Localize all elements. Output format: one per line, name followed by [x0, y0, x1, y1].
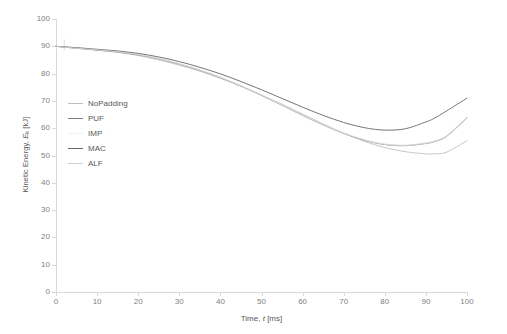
legend-swatch-icon-puf: [68, 118, 83, 119]
y-axis-title-symbol: E: [21, 134, 30, 139]
y-axis-title-pre: Kinetic Energy,: [21, 139, 30, 193]
x-axis-title: Time, t [ms]: [56, 314, 467, 323]
legend-label: ALF: [88, 159, 103, 168]
kinetic-energy-line-chart: 0102030405060708090100 01020304050607080…: [0, 0, 507, 334]
chart-legend: NoPaddingPUFIMPMACALF: [68, 96, 128, 171]
x-axis-title-post: [ms]: [265, 314, 282, 323]
legend-swatch-icon-imp: [68, 133, 83, 134]
y-axis-title: Kinetic Energy, Ek [kJ]: [22, 85, 31, 225]
x-axis-title-pre: Time,: [241, 314, 263, 323]
legend-item-alf[interactable]: ALF: [68, 156, 128, 171]
legend-swatch-icon-nopadding: [68, 103, 83, 104]
legend-item-nopadding[interactable]: NoPadding: [68, 96, 128, 111]
legend-label: NoPadding: [88, 99, 128, 108]
legend-label: MAC: [88, 144, 106, 153]
legend-label: PUF: [88, 114, 104, 123]
legend-item-imp[interactable]: IMP: [68, 126, 128, 141]
y-axis-title-post: [kJ]: [21, 117, 30, 131]
legend-swatch-icon-alf: [68, 163, 83, 164]
legend-swatch-icon-mac: [68, 148, 83, 149]
legend-item-puf[interactable]: PUF: [68, 111, 128, 126]
y-axis-title-subscript: k: [24, 131, 30, 134]
legend-item-mac[interactable]: MAC: [68, 141, 128, 156]
legend-label: IMP: [88, 129, 102, 138]
